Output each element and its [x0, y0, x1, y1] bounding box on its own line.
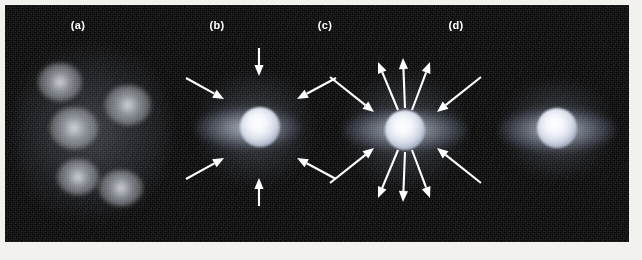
protostar-core	[240, 107, 280, 147]
clump-speckle	[105, 85, 151, 125]
clump-speckle	[57, 159, 99, 195]
panel-label-d: (d)	[449, 19, 464, 31]
figure-four-panel-star-formation: (a) (b) (c) (d)	[0, 0, 642, 260]
clump-speckle	[38, 63, 82, 101]
cloud-clump	[105, 85, 151, 125]
protostar-core	[537, 108, 577, 148]
cloud-clump	[99, 170, 143, 206]
panel-label-a: (a)	[71, 19, 85, 31]
clump-speckle	[99, 170, 143, 206]
clump-speckle	[50, 107, 98, 149]
cloud-clump	[50, 107, 98, 149]
protostar-core	[385, 110, 425, 150]
cloud-clump	[57, 159, 99, 195]
image-plate: (a) (b) (c) (d)	[5, 5, 629, 242]
panel-label-b: (b)	[210, 19, 225, 31]
panel-label-c: (c)	[318, 19, 332, 31]
cloud-clump	[38, 63, 82, 101]
